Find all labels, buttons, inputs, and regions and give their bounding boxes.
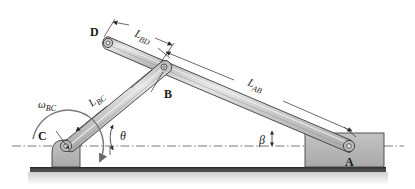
angle-label-theta: θ (120, 129, 126, 143)
joint-label-A: A (345, 155, 354, 169)
joint-B (161, 64, 167, 70)
joint-label-C: C (38, 129, 47, 143)
mechanism-diagram-canvas: LAB LBD LBC θ β ωBC A B C D (0, 0, 415, 189)
joint-label-D: D (90, 25, 99, 39)
angle-label-beta: β (258, 133, 265, 147)
joint-D (103, 38, 112, 47)
mechanism-figure: LAB LBD LBC θ β ωBC A B C D (0, 0, 415, 189)
joint-A (343, 140, 354, 151)
joint-label-B: B (164, 87, 172, 101)
joint-C (60, 140, 71, 151)
ground-line (30, 167, 386, 172)
ground-shadow (28, 172, 388, 185)
